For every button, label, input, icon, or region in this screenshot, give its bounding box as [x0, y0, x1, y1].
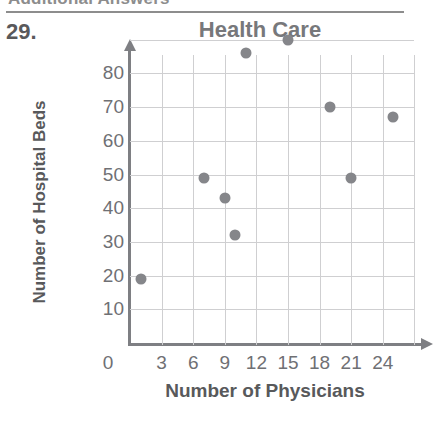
- gridline-horizontal: [130, 107, 414, 108]
- x-axis-arrow-icon: [421, 338, 433, 350]
- data-point: [346, 172, 357, 183]
- header-divider: [6, 11, 404, 13]
- x-axis-line: [128, 343, 423, 346]
- gridline-vertical: [193, 55, 194, 345]
- y-tick-label: 40: [103, 197, 124, 219]
- y-axis-arrow-icon: [124, 39, 136, 51]
- x-tick-label: 12: [246, 352, 267, 374]
- data-point: [325, 102, 336, 113]
- y-tick-label: 80: [103, 62, 124, 84]
- gridline-vertical: [162, 55, 163, 345]
- scatter-plot-area: [130, 55, 405, 345]
- x-axis-tick-labels: 03691215182124: [0, 352, 414, 376]
- y-tick-label: 60: [103, 130, 124, 152]
- x-tick-label: 24: [372, 352, 393, 374]
- x-tick-label: 0: [103, 352, 114, 374]
- y-tick-label: 10: [103, 298, 124, 320]
- x-tick-label: 15: [277, 352, 298, 374]
- data-point: [283, 34, 294, 45]
- y-tick-label: 50: [103, 164, 124, 186]
- data-point: [388, 112, 399, 123]
- gridline-vertical: [351, 55, 352, 345]
- gridline-horizontal: [130, 276, 414, 277]
- gridline-vertical: [288, 55, 289, 345]
- gridline-horizontal: [130, 309, 414, 310]
- data-point: [240, 48, 251, 59]
- x-tick-label: 6: [188, 352, 199, 374]
- y-axis-title: Number of Hospital Beds: [30, 87, 50, 317]
- gridline-vertical: [320, 55, 321, 345]
- gridline-vertical: [414, 55, 415, 345]
- data-point: [230, 230, 241, 241]
- running-head: Additional Answers: [8, 0, 170, 9]
- y-axis-line: [128, 47, 131, 345]
- x-tick-label: 18: [309, 352, 330, 374]
- gridline-horizontal: [130, 40, 414, 41]
- data-point: [135, 273, 146, 284]
- y-tick-label: 20: [103, 265, 124, 287]
- x-tick-label: 3: [156, 352, 167, 374]
- y-axis-tick-labels: 1020304050607080: [88, 55, 124, 345]
- gridline-horizontal: [130, 141, 414, 142]
- gridline-horizontal: [130, 175, 414, 176]
- x-axis-title: Number of Physicians: [110, 380, 420, 402]
- y-tick-label: 70: [103, 96, 124, 118]
- x-tick-label: 21: [341, 352, 362, 374]
- gridline-horizontal: [130, 242, 414, 243]
- gridline-horizontal: [130, 73, 414, 74]
- gridline-vertical: [256, 55, 257, 345]
- data-point: [219, 193, 230, 204]
- x-tick-label: 9: [220, 352, 231, 374]
- gridline-vertical: [383, 55, 384, 345]
- data-point: [198, 172, 209, 183]
- problem-number: 29.: [6, 19, 37, 45]
- y-tick-label: 30: [103, 231, 124, 253]
- gridline-horizontal: [130, 208, 414, 209]
